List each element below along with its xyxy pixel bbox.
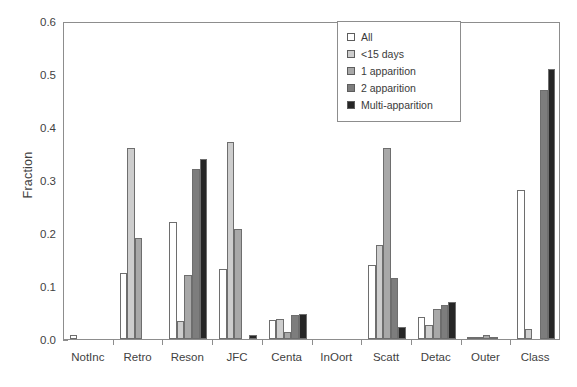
x-tick-mark	[162, 340, 163, 345]
legend-swatch-icon	[347, 101, 355, 109]
bar	[192, 169, 200, 339]
bar	[284, 332, 292, 339]
bar	[483, 335, 491, 339]
bar	[383, 148, 391, 339]
x-tick-mark	[461, 340, 462, 345]
chart-legend: All<15 days1 apparition2 apparitionMulti…	[337, 21, 461, 122]
legend-swatch-icon	[347, 50, 355, 58]
plot-area	[64, 23, 559, 339]
bar	[398, 327, 406, 339]
y-tick-label: 0.1	[16, 281, 56, 293]
legend-label: Multi-apparition	[361, 100, 433, 111]
x-tick-mark	[361, 340, 362, 345]
legend-item: <15 days	[347, 46, 452, 62]
bar-group	[219, 23, 257, 339]
bar	[135, 238, 143, 339]
bar	[291, 315, 299, 339]
bar	[276, 319, 284, 339]
legend-label: <15 days	[361, 49, 404, 60]
plot-frame	[63, 22, 560, 340]
bar	[177, 321, 185, 339]
bar-group	[120, 23, 158, 339]
bar-group	[517, 23, 555, 339]
legend-item: 1 apparition	[347, 63, 452, 79]
y-tick-label: 0.6	[16, 16, 56, 28]
y-tick-label: 0.4	[16, 122, 56, 134]
bar	[490, 337, 498, 339]
bar	[448, 302, 456, 339]
x-tick-mark	[262, 340, 263, 345]
bar	[548, 69, 556, 339]
y-tick-label: 0.5	[16, 69, 56, 81]
bar	[433, 309, 441, 339]
bar	[70, 335, 78, 339]
bar	[219, 269, 227, 339]
x-tick-mark	[510, 340, 511, 345]
y-tick-label: 0.2	[16, 228, 56, 240]
bar	[391, 278, 399, 339]
bar-group	[70, 23, 108, 339]
x-tick-mark	[312, 340, 313, 345]
legend-item: Multi-apparition	[347, 97, 452, 113]
bar-group	[169, 23, 207, 339]
y-tick-label: 0.3	[16, 175, 56, 187]
x-tick-label: Class	[490, 351, 577, 363]
bar	[467, 337, 475, 339]
bar	[299, 314, 307, 339]
legend-item: All	[347, 29, 452, 45]
x-tick-mark	[113, 340, 114, 345]
bar	[525, 329, 533, 339]
bar	[200, 159, 208, 339]
legend-item: 2 apparition	[347, 80, 452, 96]
y-tick-label: 0.0	[16, 334, 56, 346]
bar	[184, 275, 192, 339]
legend-label: 2 apparition	[361, 83, 416, 94]
bar	[418, 317, 426, 339]
x-tick-mark	[411, 340, 412, 345]
bar-group	[467, 23, 505, 339]
legend-swatch-icon	[347, 67, 355, 75]
legend-swatch-icon	[347, 33, 355, 41]
bar	[376, 245, 384, 339]
bar-group	[269, 23, 307, 339]
bar	[475, 337, 483, 339]
bar	[120, 273, 128, 339]
bar	[425, 325, 433, 339]
legend-label: All	[361, 32, 373, 43]
bar	[234, 229, 242, 339]
bar	[517, 190, 525, 339]
bar	[127, 148, 135, 339]
bar	[227, 142, 235, 339]
x-tick-mark	[212, 340, 213, 345]
bar	[368, 265, 376, 339]
legend-swatch-icon	[347, 84, 355, 92]
bar	[540, 90, 548, 339]
legend-label: 1 apparition	[361, 66, 416, 77]
bar	[169, 222, 177, 339]
bar-chart: Fraction 0.00.10.20.30.40.50.6 NotIncRet…	[0, 0, 577, 387]
y-tick-mark	[63, 340, 68, 341]
bar	[249, 335, 257, 339]
bar	[441, 305, 449, 339]
bar	[269, 320, 277, 339]
